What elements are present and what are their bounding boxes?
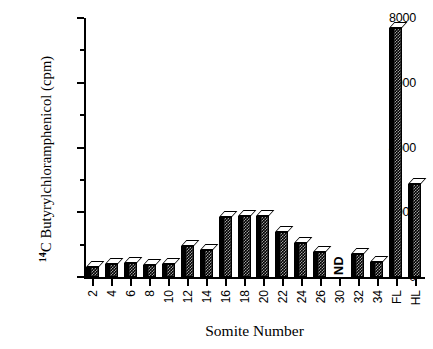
bar-top-face [219,211,237,217]
x-axis-title: Somite Number [84,322,425,340]
x-axis-tick [92,279,94,286]
x-axis-tick-label: 2 [87,290,99,297]
bar [408,184,421,277]
bar-top-face [256,210,274,216]
x-axis-tick-label: 32 [353,290,365,303]
x-axis-tick [301,279,303,286]
nd-annotation: ND [333,256,346,275]
x-axis-tick-label: 8 [144,290,156,297]
bar-side-face [408,184,413,277]
bar-side-face [143,265,148,277]
bar-top-face [275,226,293,232]
x-axis-tick [415,279,417,286]
bar-top-face [105,258,123,264]
bar-top-face [200,244,218,250]
bar-side-face [181,246,186,277]
bar-side-face [200,250,205,277]
x-axis-tick-label: 12 [182,290,194,303]
x-axis-tick-label: FL [391,290,403,304]
x-axis-tick [111,279,113,286]
x-axis-tick [187,279,189,286]
bar-top-face [86,261,104,267]
y-axis-title-text: C Butyrylchloramphenicol (cpm) [38,56,54,252]
bar [294,243,307,277]
plot-area: 02000400060008000 2468101214161820222426… [84,18,425,277]
bar-side-face [256,216,261,278]
y-axis-tick [77,276,84,278]
bar-top-face [124,257,142,263]
bar-top-face [370,256,388,262]
x-axis-tick-label: 20 [258,290,270,303]
x-axis-tick [130,279,132,286]
x-axis-tick [282,279,284,286]
x-axis-tick-label: 4 [106,290,118,297]
y-axis-tick [77,211,84,213]
bar [86,267,99,277]
x-axis-tick [358,279,360,286]
bar-top-face [408,178,426,184]
x-axis-tick [149,279,151,286]
x-axis-tick-label: 6 [125,290,137,297]
bar [389,28,402,277]
x-axis-tick [263,279,265,286]
bar [143,265,156,277]
bar-side-face [124,263,129,277]
bar-top-face [238,210,256,216]
bar-top-face [313,246,331,252]
bar-top-face [181,240,199,246]
bar-top-face [143,259,161,265]
bar [351,254,364,277]
x-axis-tick [377,279,379,286]
bar [200,250,213,277]
bar [219,217,232,277]
bar-side-face [219,217,224,277]
bar [256,216,269,278]
bar [162,264,175,277]
bar-side-face [351,254,356,277]
bar [105,264,118,277]
x-axis-tick [168,279,170,286]
bar-side-face [86,267,91,277]
bar [275,232,288,277]
bar [238,216,251,277]
bar [370,262,383,277]
x-axis-tick [396,279,398,286]
y-axis-title: 14C Butyrylchloramphenicol (cpm) [37,9,55,309]
bar-side-face [389,28,394,277]
bar [181,246,194,277]
y-axis-title-superscript: 14 [37,252,48,262]
x-axis-tick-label: 24 [296,290,308,303]
y-axis-tick [77,17,84,19]
bar [124,263,137,277]
x-axis-tick-label: 22 [277,290,289,303]
y-axis-tick [77,82,84,84]
x-axis-tick-label: 16 [220,290,232,303]
bar-side-face [370,262,375,277]
x-axis-tick [244,279,246,286]
x-axis-tick-label: 10 [163,290,175,303]
x-axis-tick-label: 14 [201,290,213,303]
y-axis-minor-tick [80,114,84,116]
bar-top-face [294,237,312,243]
x-axis-tick-label: 18 [239,290,251,303]
x-axis-tick [320,279,322,286]
x-axis-tick [225,279,227,286]
y-axis-tick [77,147,84,149]
y-axis-line [84,18,86,277]
bar [313,252,326,277]
y-axis-minor-tick [80,49,84,51]
x-axis-tick-label: 30 [334,290,346,303]
bar-side-face [162,264,167,277]
x-axis-tick [206,279,208,286]
bar-top-face [162,258,180,264]
bar-side-face [105,264,110,277]
x-axis-tick-label: 34 [372,290,384,303]
bar-side-face [275,232,280,277]
bar-side-face [238,216,243,277]
chart-figure: 14C Butyrylchloramphenicol (cpm) 0200040… [0,0,433,349]
x-axis-tick [339,279,341,286]
x-axis-tick-label: HL [410,290,422,305]
bar-top-face [351,248,369,254]
bar-side-face [294,243,299,277]
y-axis-minor-tick [80,179,84,181]
